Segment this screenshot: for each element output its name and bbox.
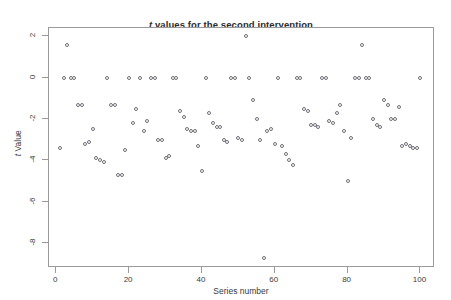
scatter-point bbox=[80, 103, 84, 107]
scatter-point bbox=[280, 144, 284, 148]
scatter-point bbox=[357, 76, 361, 80]
scatter-point bbox=[72, 76, 76, 80]
y-tick-label: -4 bbox=[22, 152, 44, 166]
scatter-point bbox=[418, 76, 422, 80]
scatter-point bbox=[145, 119, 149, 123]
scatter-point bbox=[349, 136, 353, 140]
scatter-point bbox=[324, 76, 328, 80]
y-axis-label-rest: Value bbox=[13, 130, 23, 153]
scatter-point bbox=[200, 169, 204, 173]
scatter-point bbox=[196, 144, 200, 148]
scatter-point bbox=[335, 111, 339, 115]
scatter-point bbox=[360, 43, 364, 47]
y-tick-label: 2 bbox=[22, 28, 44, 42]
scatter-point bbox=[160, 138, 164, 142]
x-axis-label: Series number bbox=[48, 286, 434, 296]
scatter-point bbox=[367, 76, 371, 80]
y-tick-label: -2 bbox=[22, 111, 44, 125]
x-tick-label: 100 bbox=[404, 275, 434, 284]
scatter-point bbox=[269, 127, 273, 131]
scatter-point bbox=[240, 138, 244, 142]
scatter-point bbox=[91, 127, 95, 131]
scatter-point bbox=[120, 173, 124, 177]
scatter-point bbox=[262, 256, 266, 260]
scatter-point bbox=[276, 76, 280, 80]
scatter-point bbox=[65, 43, 69, 47]
scatter-point bbox=[415, 146, 419, 150]
scatter-point bbox=[58, 146, 62, 150]
scatter-point bbox=[207, 111, 211, 115]
y-tick-label-text: 2 bbox=[26, 24, 40, 46]
y-tick-label-text: -2 bbox=[26, 107, 40, 129]
scatter-point bbox=[331, 121, 335, 125]
y-tick-label-text: -8 bbox=[26, 231, 40, 253]
y-tick-label-text: -6 bbox=[26, 190, 40, 212]
x-tick-mark bbox=[128, 267, 129, 273]
scatter-point bbox=[113, 103, 117, 107]
scatter-point bbox=[397, 105, 401, 109]
scatter-point bbox=[87, 140, 91, 144]
y-tick-label: -6 bbox=[22, 194, 44, 208]
scatter-point bbox=[127, 76, 131, 80]
scatter-point bbox=[174, 76, 178, 80]
y-tick-label: 0 bbox=[22, 70, 44, 84]
scatter-point bbox=[102, 160, 106, 164]
scatter-point bbox=[338, 103, 342, 107]
scatter-point bbox=[382, 98, 386, 102]
scatter-point bbox=[258, 138, 262, 142]
scatter-point bbox=[218, 125, 222, 129]
scatter-point bbox=[316, 125, 320, 129]
scatter-point bbox=[371, 117, 375, 121]
y-tick-label-text: -4 bbox=[26, 148, 40, 170]
scatter-point bbox=[138, 76, 142, 80]
scatter-point bbox=[386, 103, 390, 107]
x-tick-mark bbox=[201, 267, 202, 273]
scatter-point bbox=[255, 117, 259, 121]
scatter-point bbox=[178, 109, 182, 113]
x-tick-label: 60 bbox=[259, 275, 289, 284]
scatter-point bbox=[378, 125, 382, 129]
scatter-point bbox=[62, 76, 66, 80]
scatter-point bbox=[131, 121, 135, 125]
scatter-point bbox=[233, 76, 237, 80]
x-tick-label: 80 bbox=[332, 275, 362, 284]
scatter-point bbox=[284, 152, 288, 156]
scatter-point bbox=[247, 76, 251, 80]
scatter-point bbox=[306, 109, 310, 113]
scatter-point bbox=[204, 76, 208, 80]
scatter-point bbox=[153, 76, 157, 80]
scatter-point bbox=[287, 158, 291, 162]
scatter-point bbox=[251, 98, 255, 102]
chart-figure: t values for the second intervention t V… bbox=[0, 0, 451, 300]
scatter-point bbox=[346, 179, 350, 183]
scatter-point bbox=[211, 121, 215, 125]
scatter-point bbox=[342, 129, 346, 133]
x-tick-mark bbox=[419, 267, 420, 273]
x-tick-label: 40 bbox=[186, 275, 216, 284]
scatter-point bbox=[298, 76, 302, 80]
x-tick-mark bbox=[55, 267, 56, 273]
scatter-point bbox=[142, 129, 146, 133]
scatter-point bbox=[291, 163, 295, 167]
plot-area bbox=[48, 27, 434, 267]
x-tick-label: 0 bbox=[40, 275, 70, 284]
scatter-points-layer bbox=[49, 28, 433, 266]
x-tick-mark bbox=[347, 267, 348, 273]
scatter-point bbox=[393, 117, 397, 121]
y-tick-label-text: 0 bbox=[26, 66, 40, 88]
scatter-point bbox=[134, 107, 138, 111]
scatter-point bbox=[182, 115, 186, 119]
x-tick-label: 20 bbox=[113, 275, 143, 284]
y-tick-label: -8 bbox=[22, 235, 44, 249]
scatter-point bbox=[193, 129, 197, 133]
x-tick-mark bbox=[274, 267, 275, 273]
scatter-point bbox=[167, 154, 171, 158]
scatter-point bbox=[273, 142, 277, 146]
scatter-point bbox=[123, 148, 127, 152]
scatter-point bbox=[244, 34, 248, 38]
scatter-point bbox=[105, 76, 109, 80]
scatter-point bbox=[225, 140, 229, 144]
